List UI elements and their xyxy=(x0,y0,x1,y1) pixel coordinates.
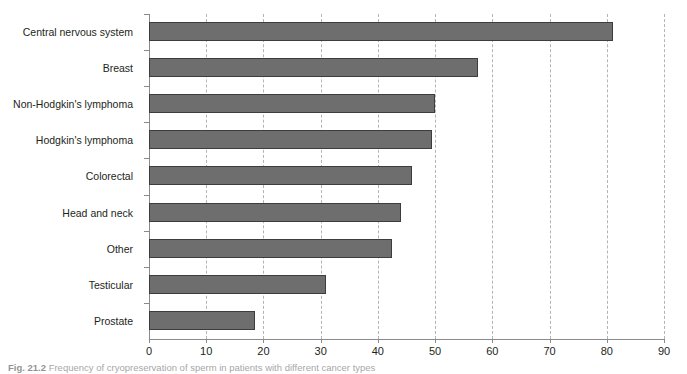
x-axis-tick-label-20: 20 xyxy=(243,345,283,357)
x-axis-tick-10 xyxy=(206,339,207,343)
bar-row xyxy=(149,158,664,194)
x-axis-tick-label-30: 30 xyxy=(301,345,341,357)
bar xyxy=(149,275,326,294)
x-axis-tick-label-90: 90 xyxy=(644,345,684,357)
plot-area xyxy=(149,14,664,339)
y-axis-label: Breast xyxy=(103,50,133,86)
y-axis-tick xyxy=(144,14,149,15)
bar xyxy=(149,22,613,41)
y-axis-label: Central nervous system xyxy=(23,14,133,50)
y-axis-label: Prostate xyxy=(94,303,133,339)
bar-row xyxy=(149,86,664,122)
bar xyxy=(149,94,435,113)
bar-row xyxy=(149,14,664,50)
x-axis-tick-60 xyxy=(492,339,493,343)
bar-row xyxy=(149,303,664,339)
y-axis-tick xyxy=(144,158,149,159)
x-axis-tick-label-40: 40 xyxy=(358,345,398,357)
x-axis-tick-label-0: 0 xyxy=(129,345,169,357)
y-axis-tick xyxy=(144,231,149,232)
bar-row xyxy=(149,50,664,86)
x-axis-tick-30 xyxy=(321,339,322,343)
x-axis-tick-label-60: 60 xyxy=(472,345,512,357)
y-axis-tick xyxy=(144,122,149,123)
y-axis-label: Non-Hodgkin's lymphoma xyxy=(13,86,133,122)
gridline-90 xyxy=(664,14,665,339)
y-axis-label: Head and neck xyxy=(62,195,133,231)
bar xyxy=(149,311,255,330)
y-axis-tick xyxy=(144,303,149,304)
x-axis-tick-90 xyxy=(664,339,665,343)
bar-series xyxy=(149,14,664,339)
x-axis-tick-0 xyxy=(149,339,150,343)
bar xyxy=(149,203,401,222)
figure-caption: Fig. 21.2 Frequency of cryopreservation … xyxy=(8,362,679,374)
bar xyxy=(149,58,478,77)
y-axis-tick xyxy=(144,195,149,196)
x-axis-tick-50 xyxy=(435,339,436,343)
x-axis-tick-40 xyxy=(378,339,379,343)
x-axis-tick-label-80: 80 xyxy=(587,345,627,357)
bar-row xyxy=(149,231,664,267)
y-axis-tick xyxy=(144,267,149,268)
bar-row xyxy=(149,122,664,158)
bar xyxy=(149,239,392,258)
bar-row xyxy=(149,195,664,231)
x-axis-tick-20 xyxy=(263,339,264,343)
y-axis-label: Colorectal xyxy=(86,158,133,194)
x-axis-tick-70 xyxy=(550,339,551,343)
y-axis-tick xyxy=(144,86,149,87)
y-axis-label: Other xyxy=(107,231,133,267)
x-axis-tick-label-70: 70 xyxy=(530,345,570,357)
figure-caption-text: Frequency of cryopreservation of sperm i… xyxy=(49,362,376,373)
y-axis-tick xyxy=(144,50,149,51)
y-axis-category-labels: Central nervous systemBreastNon-Hodgkin'… xyxy=(0,14,143,339)
bar-row xyxy=(149,267,664,303)
bar xyxy=(149,130,432,149)
x-axis-tick-label-10: 10 xyxy=(186,345,226,357)
x-axis-tick-80 xyxy=(607,339,608,343)
y-axis-label: Testicular xyxy=(89,267,133,303)
x-axis-line xyxy=(149,339,665,340)
y-axis-label: Hodgkin's lymphoma xyxy=(36,122,133,158)
bar xyxy=(149,166,412,185)
x-axis-tick-label-50: 50 xyxy=(415,345,455,357)
figure-caption-label: Fig. 21.2 xyxy=(8,362,46,373)
